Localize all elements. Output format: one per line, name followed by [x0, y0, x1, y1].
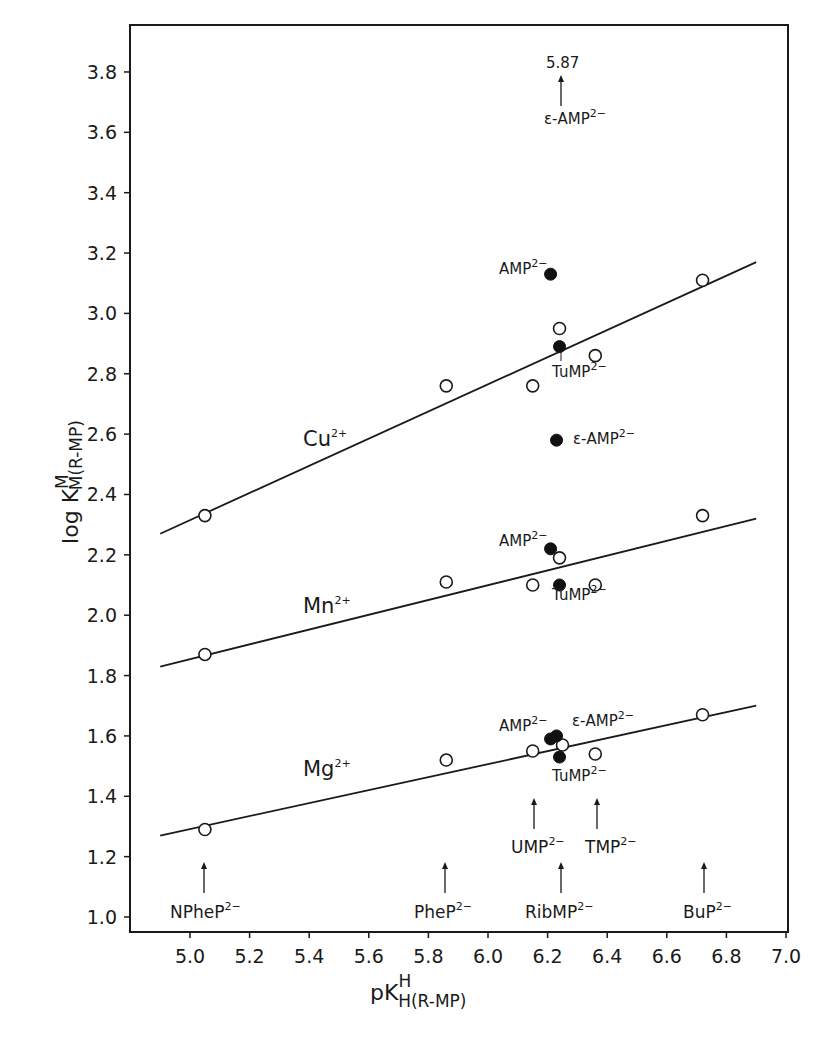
arrowhead-icon: [531, 798, 537, 805]
open-point: [199, 648, 211, 660]
ligand-marker-npheP: NPheP2−: [170, 862, 241, 922]
y-tick-label: 1.0: [87, 906, 117, 928]
y-tick-label: 2.4: [87, 483, 117, 505]
off-scale-value: 5.87: [546, 54, 579, 72]
y-tick-label: 1.6: [87, 725, 117, 747]
open-point: [589, 748, 601, 760]
annotation-mg-eamp: ε-AMP2−: [572, 709, 634, 730]
ligand-marker-bup: BuP2−: [683, 862, 732, 922]
annotation-mn-tump: TuMP2−: [551, 583, 607, 604]
open-point: [440, 754, 452, 766]
open-point: [554, 552, 566, 564]
x-tick-label: 6.0: [473, 945, 503, 967]
filled-point: [554, 751, 566, 763]
annotation-cu-eamp: ε-AMP2−: [573, 427, 635, 448]
open-point: [527, 579, 539, 591]
svg-text:TMP2−: TMP2−: [584, 835, 637, 857]
x-axis-ticks: 5.05.25.45.65.86.06.26.46.66.87.0: [175, 932, 801, 967]
y-tick-label: 3.4: [87, 182, 117, 204]
x-axis-title: pKHH(R-MP): [370, 971, 466, 1011]
x-tick-label: 5.4: [294, 945, 324, 967]
open-point: [440, 380, 452, 392]
svg-text:PheP2−: PheP2−: [414, 900, 472, 922]
x-tick-label: 7.0: [771, 945, 801, 967]
series-label-mn: Mn2+: [303, 594, 351, 618]
x-tick-label: 6.6: [652, 945, 682, 967]
open-point: [697, 709, 709, 721]
open-point: [199, 510, 211, 522]
arrowhead-icon: [201, 862, 207, 869]
arrowhead-icon: [701, 862, 707, 869]
open-point: [199, 823, 211, 835]
regression-line: [160, 519, 756, 667]
arrowhead-icon: [594, 798, 600, 805]
open-point: [697, 510, 709, 522]
svg-text:UMP2−: UMP2−: [511, 835, 565, 857]
x-tick-label: 6.2: [532, 945, 562, 967]
y-tick-label: 3.2: [87, 242, 117, 264]
annotation-mn-amp: AMP2−: [499, 529, 547, 550]
y-axis-ticks: 1.01.21.41.61.82.02.22.42.62.83.03.23.43…: [87, 61, 130, 928]
y-axis-title: log KMM(R-MP): [52, 420, 86, 544]
filled-point: [551, 730, 563, 742]
ligand-marker-tmp: TMP2−: [584, 798, 637, 857]
annotation-eamp-top: ε-AMP2−: [544, 107, 606, 128]
x-tick-label: 5.2: [234, 945, 264, 967]
open-point: [440, 576, 452, 588]
annotation-cu-tump: TuMP2−: [551, 360, 607, 381]
y-tick-label: 3.6: [87, 121, 117, 143]
annotation-cu-amp: AMP2−: [499, 257, 547, 278]
annotation-mg-amp: AMP2−: [499, 714, 547, 735]
arrowhead-icon: [442, 862, 448, 869]
open-point: [554, 322, 566, 334]
ligand-marker-ribmp: RibMP2−: [525, 862, 593, 922]
ligand-marker-ump: UMP2−: [511, 798, 565, 857]
svg-text:log KMM(R-MP): log KMM(R-MP): [52, 420, 86, 544]
y-tick-label: 2.8: [87, 363, 117, 385]
regression-line: [160, 706, 756, 836]
arrowhead-icon: [558, 862, 564, 869]
svg-text:BuP2−: BuP2−: [683, 900, 732, 922]
open-point: [527, 380, 539, 392]
y-tick-label: 3.0: [87, 302, 117, 324]
x-tick-label: 5.0: [175, 945, 205, 967]
x-tick-label: 5.8: [413, 945, 443, 967]
x-tick-label: 6.8: [711, 945, 741, 967]
y-tick-label: 1.8: [87, 665, 117, 687]
filled-point: [554, 341, 566, 353]
plot-frame: [130, 25, 788, 932]
svg-text:RibMP2−: RibMP2−: [525, 900, 593, 922]
svg-text:NPheP2−: NPheP2−: [170, 900, 241, 922]
filled-point: [551, 434, 563, 446]
scatter-chart: 1.01.21.41.61.82.02.22.42.62.83.03.23.43…: [0, 0, 825, 1041]
y-tick-label: 2.6: [87, 423, 117, 445]
annotation-mg-tump: TuMP2−: [551, 764, 607, 785]
data-points: [199, 268, 709, 835]
y-tick-label: 1.4: [87, 785, 117, 807]
regression-lines: [160, 262, 756, 835]
x-tick-label: 6.4: [592, 945, 622, 967]
series-label-mg: Mg2+: [303, 757, 351, 781]
ligand-marker-pheP: PheP2−: [414, 862, 472, 922]
y-tick-label: 1.2: [87, 846, 117, 868]
filled-point: [545, 543, 557, 555]
x-tick-label: 5.6: [354, 945, 384, 967]
y-tick-label: 3.8: [87, 61, 117, 83]
y-tick-label: 2.0: [87, 604, 117, 626]
series-label-cu: Cu2+: [303, 427, 347, 451]
y-tick-label: 2.2: [87, 544, 117, 566]
svg-text:pKHH(R-MP): pKHH(R-MP): [370, 971, 466, 1011]
arrowhead-icon: [558, 75, 564, 82]
open-point: [527, 745, 539, 757]
regression-line: [160, 262, 756, 534]
open-point: [697, 274, 709, 286]
